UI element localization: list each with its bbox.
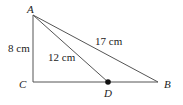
point-d-label: D xyxy=(103,87,112,99)
point-a-label: A xyxy=(26,3,34,15)
label-ab-length: 17 cm xyxy=(95,35,123,47)
point-c-label: C xyxy=(19,78,27,90)
segment-ab xyxy=(33,15,158,82)
triangle-diagram: A C B D 8 cm 17 cm 12 cm xyxy=(0,0,183,105)
label-ac-length: 8 cm xyxy=(8,42,30,54)
point-b-label: B xyxy=(164,78,171,90)
point-d-dot xyxy=(105,79,111,85)
label-ad-length: 12 cm xyxy=(48,51,76,63)
segment-ad xyxy=(33,15,108,82)
